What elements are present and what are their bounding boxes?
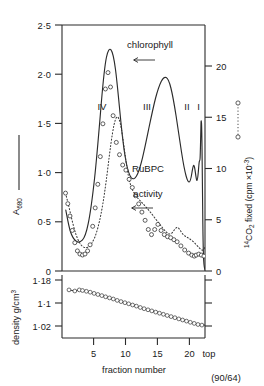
- annotation-activity: activity: [133, 188, 163, 199]
- absorbance-axis-title: A680: [11, 198, 23, 215]
- density-axis-title: density g/cm3: [10, 289, 21, 345]
- y2tick-label-10: 10: [216, 164, 226, 174]
- xtick-label-top: top: [203, 349, 216, 359]
- xtick-label-20: 20: [184, 349, 194, 359]
- density-y-ticks: [55, 280, 62, 326]
- figure-container: 2·5 2·0 1·5 1·0 0·5 0 A680 0 5 10 15 20 …: [0, 0, 264, 386]
- ytick-label-1-5: 1·5: [38, 119, 51, 129]
- density-markers: [67, 288, 204, 327]
- density-ytick-label-1-02: 1·02: [32, 322, 51, 332]
- peak-label-I: I: [197, 101, 200, 112]
- x-axis-title: fraction number: [102, 365, 166, 375]
- absorbance-curves: [64, 49, 206, 270]
- ytick-label-0-5: 0·5: [38, 217, 51, 227]
- annotation-activity-arrow: [132, 206, 153, 211]
- absorbance-axis-title-group: A680: [11, 135, 23, 215]
- y2tick-label-15: 15: [216, 113, 226, 123]
- xtick-label-15: 15: [152, 349, 162, 359]
- x-ticks: [94, 338, 190, 345]
- peak-label-IV: IV: [97, 101, 107, 112]
- peak-label-II: II: [184, 101, 189, 112]
- annotation-chlorophyll-arrow: [134, 58, 155, 63]
- chart-svg: 2·5 2·0 1·5 1·0 0·5 0 A680 0 5 10 15 20 …: [0, 0, 264, 386]
- y2tick-label-5: 5: [216, 215, 221, 225]
- ytick-label-1-0: 1·0: [38, 168, 51, 178]
- density-curves: [67, 288, 205, 327]
- absorbance-y-ticks: [55, 25, 62, 271]
- y2tick-label-20: 20: [216, 62, 226, 72]
- xtick-label-5: 5: [91, 349, 96, 359]
- co2-y-ticks: [205, 66, 212, 271]
- annotation-rubpc: RuBPC: [132, 163, 164, 174]
- peak-label-III: III: [143, 101, 151, 112]
- ytick-label-2-5: 2·5: [38, 21, 51, 31]
- chlorophyll-curve: [66, 49, 205, 270]
- annotation-chlorophyll: chlorophyll: [127, 39, 173, 50]
- co2-legend-dotted: [236, 101, 240, 139]
- ytick-label-2-0: 2·0: [38, 70, 51, 80]
- density-ytick-label-1-18: 1·18: [32, 276, 51, 286]
- figure-caption: (90/64): [211, 373, 240, 383]
- density-ytick-label-1-1: 1·1: [38, 299, 51, 309]
- y2tick-label-0: 0: [216, 267, 221, 277]
- co2-axis-title: 14CO2 fixed (cpm ×10-3): [243, 157, 255, 248]
- xtick-label-10: 10: [120, 349, 130, 359]
- density-right-ticks: [205, 280, 212, 326]
- absorbance-panel-frame: [62, 25, 205, 271]
